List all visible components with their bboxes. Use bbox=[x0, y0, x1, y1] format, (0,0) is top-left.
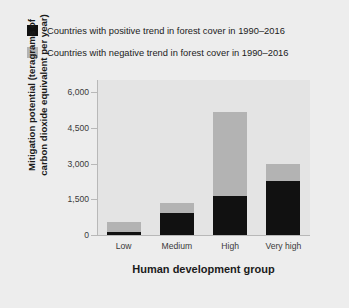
y-axis-line bbox=[97, 80, 98, 236]
bar-segment-positive-trend bbox=[160, 213, 194, 235]
bar-very-high bbox=[266, 164, 300, 235]
y-axis-tick bbox=[91, 164, 97, 165]
bar-segment-positive-trend bbox=[213, 196, 247, 235]
bar-segment-negative-trend bbox=[213, 112, 247, 196]
y-axis-tick-label: 0 bbox=[33, 230, 89, 240]
x-axis-tick-labels: LowMediumHighVery high bbox=[97, 241, 310, 255]
bar-low bbox=[107, 222, 141, 235]
y-axis-tick-label: 1,500 bbox=[33, 194, 89, 204]
x-axis-title: Human development group bbox=[97, 263, 310, 275]
bar-medium bbox=[160, 203, 194, 235]
bar-segment-negative-trend bbox=[266, 164, 300, 181]
chart-figure: Countries with positive trend in forest … bbox=[0, 0, 349, 308]
bar-high bbox=[213, 112, 247, 235]
y-axis-tick bbox=[91, 235, 97, 236]
bar-segment-negative-trend bbox=[107, 222, 141, 232]
x-axis-line bbox=[97, 235, 310, 236]
y-axis-tick bbox=[91, 199, 97, 200]
y-axis-title: Mitigation potential (teragrams of carbo… bbox=[23, 10, 53, 180]
plot-area bbox=[97, 80, 310, 236]
x-axis-tick-label: Very high bbox=[248, 241, 318, 251]
y-axis-tick bbox=[91, 128, 97, 129]
bar-segment-positive-trend bbox=[266, 181, 300, 235]
bar-segment-negative-trend bbox=[160, 203, 194, 213]
y-axis-tick bbox=[91, 92, 97, 93]
